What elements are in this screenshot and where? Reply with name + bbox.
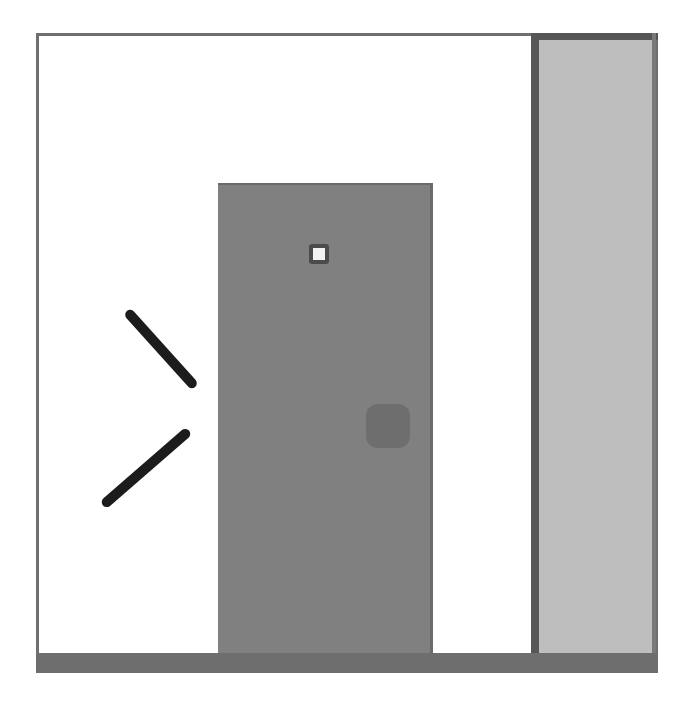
peephole-lens-icon: [313, 248, 325, 260]
floor-threshold: [36, 653, 658, 673]
page-title: Door scene illustration: [0, 21, 1, 22]
door-knob[interactable]: [366, 404, 410, 448]
right-wall-panel: [538, 36, 655, 653]
scene-root: Door scene illustration: [0, 0, 693, 705]
panel-top-cap: [531, 33, 658, 40]
panel-jamb: [531, 33, 539, 653]
panel-right-edge: [652, 33, 656, 653]
